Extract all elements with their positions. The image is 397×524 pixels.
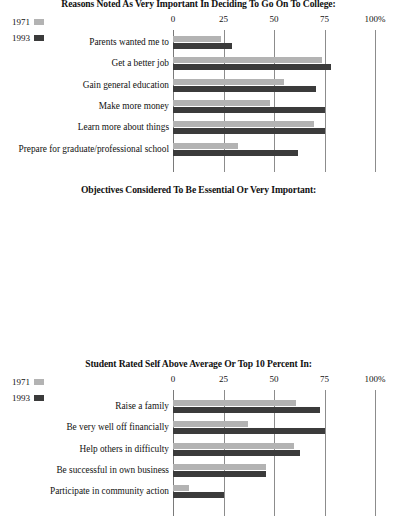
bar-1993 <box>173 450 300 456</box>
x-axis-tick-label: 50 <box>270 14 279 24</box>
bar-1971 <box>173 443 294 449</box>
x-axis-tick-label: 50 <box>270 374 279 384</box>
gridline <box>325 390 326 516</box>
x-axis: 0255075100% <box>0 14 397 26</box>
x-axis-tick-label: 100% <box>365 14 386 24</box>
x-axis-tick-label: 100% <box>365 374 386 384</box>
panel-title: Reasons Noted As Very Important In Decid… <box>0 0 397 9</box>
gridline <box>375 390 376 516</box>
panel-title: Objectives Considered To Be Essential Or… <box>0 184 397 195</box>
x-axis-tick-label: 75 <box>320 14 329 24</box>
bar-1971 <box>173 79 284 85</box>
panel-title: Student Rated Self Above Average Or Top … <box>0 358 397 369</box>
bar-1993 <box>173 428 325 434</box>
category-label: Be very well off financially <box>0 422 169 432</box>
category-label: Gain general education <box>0 80 169 90</box>
category-label: Raise a family <box>0 401 169 411</box>
bar-1971 <box>173 143 238 149</box>
category-label: Learn more about things <box>0 122 169 132</box>
category-label: Prepare for graduate/professional school <box>0 144 169 154</box>
bar-1993 <box>173 128 325 134</box>
bar-1971 <box>173 121 314 127</box>
x-axis: 0255075100% <box>0 374 397 386</box>
bar-1971 <box>173 100 270 106</box>
bar-1993 <box>173 407 320 413</box>
bar-1971 <box>173 36 221 42</box>
x-axis-tick-label: 0 <box>171 14 176 24</box>
bar-1971 <box>173 400 296 406</box>
category-label: Get a better job <box>0 58 169 68</box>
x-axis-tick-label: 25 <box>219 374 228 384</box>
bar-1971 <box>173 421 248 427</box>
bar-1993 <box>173 43 232 49</box>
category-label: Make more money <box>0 101 169 111</box>
category-label: Help others in difficulty <box>0 444 169 454</box>
x-axis-tick-label: 75 <box>320 374 329 384</box>
category-label: Parents wanted me to <box>0 37 169 47</box>
bar-1993 <box>173 107 325 113</box>
bar-1993 <box>173 64 331 70</box>
category-label: Participate in community action <box>0 486 169 496</box>
gridline <box>375 30 376 172</box>
category-label: Be successful in own business <box>0 465 169 475</box>
bar-1993 <box>173 471 266 477</box>
x-axis-tick-label: 25 <box>219 14 228 24</box>
x-axis-tick-label: 0 <box>171 374 176 384</box>
bar-1993 <box>173 150 298 156</box>
bar-1993 <box>173 492 224 498</box>
bar-1993 <box>173 86 316 92</box>
bar-1971 <box>173 485 189 491</box>
bar-1971 <box>173 464 266 470</box>
gridline <box>325 30 326 172</box>
bar-1971 <box>173 57 322 63</box>
chart-page: Reasons Noted As Very Important In Decid… <box>0 0 397 524</box>
